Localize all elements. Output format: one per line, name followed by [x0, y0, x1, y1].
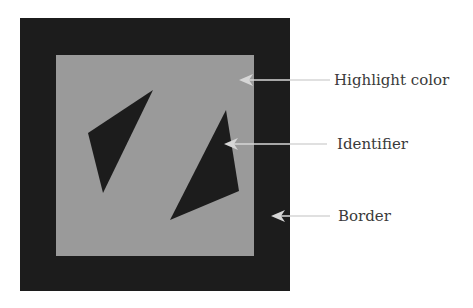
annotation-label: Highlight color [334, 71, 450, 89]
diagram-canvas: Highlight color Identifier Border [0, 0, 473, 308]
annotation-label: Identifier [337, 135, 409, 153]
annotation-label: Border [338, 207, 392, 225]
